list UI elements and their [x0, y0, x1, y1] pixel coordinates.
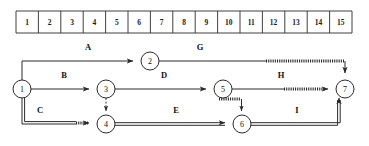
scale-tick-14: 14	[315, 18, 323, 27]
dummy-5-6	[219, 99, 242, 111]
node-2-label: 2	[148, 57, 152, 66]
node-7-label: 7	[343, 85, 347, 94]
scale-tick-5: 5	[115, 18, 119, 27]
scale-tick-6: 6	[137, 18, 141, 27]
scale-tick-11: 11	[248, 18, 255, 27]
scale-tick-4: 4	[93, 18, 97, 27]
activity-label-G: G	[197, 42, 204, 52]
activity-label-I: I	[295, 105, 299, 115]
scale-tick-10: 10	[225, 18, 233, 27]
edge-E	[115, 123, 225, 126]
node-5-label: 5	[221, 85, 225, 94]
activity-label-A: A	[85, 42, 92, 52]
node-7[interactable]: 7	[336, 80, 354, 98]
scale-tick-15: 15	[337, 18, 345, 27]
node-1[interactable]: 1	[13, 80, 31, 98]
scale-tick-2: 2	[48, 18, 52, 27]
edge-G	[159, 61, 345, 73]
scale-tick-12: 12	[270, 18, 278, 27]
activity-label-H: H	[278, 70, 285, 80]
scale-tick-8: 8	[182, 18, 186, 27]
scale-tick-13: 13	[292, 18, 300, 27]
edge-C	[22, 98, 89, 124]
activity-label-D: D	[161, 70, 167, 80]
node-3-label: 3	[104, 85, 108, 94]
activity-label-B: B	[61, 70, 67, 80]
node-5[interactable]: 5	[214, 80, 232, 98]
cpm-network-svg: 1 2 3 4 5 6 7 8 9 10 11 12 13 14 15	[0, 0, 369, 146]
node-1-label: 1	[20, 85, 24, 94]
activity-label-E: E	[173, 105, 179, 115]
timescale-ruler: 1 2 3 4 5 6 7 8 9 10 11 12 13 14 15	[16, 11, 352, 33]
scale-tick-3: 3	[70, 18, 74, 27]
network-diagram-canvas: 1 2 3 4 5 6 7 8 9 10 11 12 13 14 15	[0, 0, 369, 146]
scale-tick-7: 7	[160, 18, 164, 27]
node-4[interactable]: 4	[97, 115, 115, 133]
node-6[interactable]: 6	[233, 115, 251, 133]
node-6-label: 6	[240, 120, 244, 129]
edge-A	[22, 61, 133, 80]
scale-tick-1: 1	[25, 18, 29, 27]
node-2[interactable]: 2	[141, 52, 159, 70]
scale-tick-9: 9	[205, 18, 209, 27]
node-3[interactable]: 3	[97, 80, 115, 98]
activity-label-C: C	[37, 105, 43, 115]
node-4-label: 4	[104, 120, 108, 129]
